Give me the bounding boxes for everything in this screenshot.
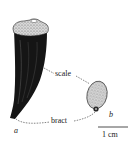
label-bract: bract: [50, 117, 68, 125]
label-part-b: b: [108, 111, 114, 119]
cone-scale-a: [10, 19, 48, 119]
scale-bar-label: 1 cm: [101, 131, 119, 139]
label-part-a: a: [13, 127, 19, 135]
seed-body-b: [84, 79, 109, 111]
label-scale: scale: [54, 70, 72, 78]
